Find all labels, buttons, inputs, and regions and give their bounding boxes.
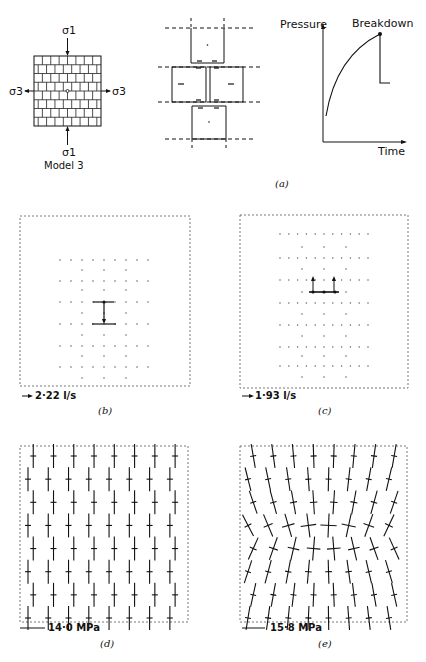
flow-vector-field-c xyxy=(215,210,426,420)
panel-b-flow-vectors: 2·22 l/s (b) xyxy=(0,210,210,420)
panel-e-label: (e) xyxy=(318,638,332,649)
panel-b-label: (b) xyxy=(98,405,112,416)
sigma3-right-label: σ3 xyxy=(112,85,126,98)
panel-d-scale: 14·0 MPa xyxy=(48,622,100,633)
panel-c-scale: 1·93 l/s xyxy=(255,390,296,401)
breakdown-annotation: Breakdown xyxy=(352,17,413,30)
panel-c-flow-vectors: 1·93 l/s (c) xyxy=(215,210,426,420)
sigma3-left-label: σ3 xyxy=(9,85,23,98)
flow-vector-field-b xyxy=(0,210,210,420)
panel-e-scale: 15·8 MPa xyxy=(270,622,322,633)
blocks-diagram xyxy=(150,0,290,190)
figure-caption-cutoff xyxy=(8,654,418,662)
panel-d-stress-field: 14·0 MPa (d) xyxy=(0,430,210,662)
panel-c-label: (c) xyxy=(318,405,331,416)
panel-a-label: (a) xyxy=(275,178,289,189)
panel-d-label: (d) xyxy=(100,638,114,649)
panel-a-model: σ1 σ1 σ3 σ3 Model 3 xyxy=(0,0,140,190)
y-axis-label: Pressure xyxy=(280,18,327,31)
stress-cross-field-d xyxy=(0,430,210,662)
x-axis-label: Time xyxy=(378,145,405,158)
model-title: Model 3 xyxy=(44,160,84,171)
sigma1-top-label: σ1 xyxy=(62,24,76,37)
panel-e-stress-field: 15·8 MPa (e) xyxy=(215,430,426,662)
panel-a-blocks xyxy=(150,0,290,190)
panel-b-scale: 2·22 l/s xyxy=(35,390,76,401)
sigma1-bottom-label: σ1 xyxy=(62,146,76,159)
panel-a-pressure-plot: Pressure Breakdown Time xyxy=(290,0,426,190)
